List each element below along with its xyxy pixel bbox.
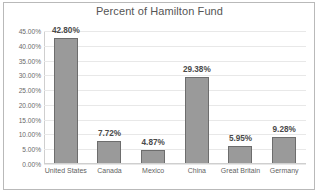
bar[interactable] [185, 77, 209, 164]
y-axis-tick-label: 25.00% [1, 87, 41, 94]
y-axis-tick-label: 30.00% [1, 72, 41, 79]
x-axis-category-label: Canada [97, 167, 122, 174]
y-axis-tick-label: 20.00% [1, 101, 41, 108]
bar-slot: 5.95% [219, 31, 263, 164]
y-axis-tick-label: 5.00% [1, 146, 41, 153]
plot-area: 42.80%7.72%4.87%29.38%5.95%9.28% [44, 31, 306, 164]
bar-value-label: 9.28% [273, 125, 296, 134]
bar[interactable] [54, 38, 78, 164]
bar[interactable] [97, 141, 121, 164]
y-axis-tick-label: 15.00% [1, 116, 41, 123]
bar-value-label: 4.87% [142, 138, 165, 147]
bar[interactable] [272, 137, 296, 164]
chart-container: Percent of Hamilton Fund 45.00%40.00%35.… [0, 0, 319, 194]
chart-title: Percent of Hamilton Fund [0, 5, 319, 17]
bar[interactable] [228, 146, 252, 164]
x-axis-category-label: China [188, 167, 206, 174]
y-axis-tick-label: 10.00% [1, 131, 41, 138]
y-axis-tick-label: 45.00% [1, 28, 41, 35]
bar-slot: 9.28% [262, 31, 306, 164]
x-axis-category-label: Great Britain [221, 167, 260, 174]
bar-slot: 7.72% [88, 31, 132, 164]
bar-value-label: 5.95% [229, 134, 252, 143]
x-axis-category-label: Germany [270, 167, 299, 174]
y-axis-tick-label: 0.00% [1, 161, 41, 168]
x-axis-category-label: United States [45, 167, 87, 174]
bar-slot: 29.38% [175, 31, 219, 164]
bar-value-label: 7.72% [98, 129, 121, 138]
x-axis-line [44, 163, 306, 164]
bar[interactable] [141, 150, 165, 164]
bar-value-label: 42.80% [52, 26, 80, 35]
x-axis-category-label: Mexico [142, 167, 164, 174]
bar-value-label: 29.38% [183, 65, 211, 74]
bars-group: 42.80%7.72%4.87%29.38%5.95%9.28% [44, 31, 306, 164]
y-axis-tick-label: 35.00% [1, 57, 41, 64]
y-axis-tick-label: 40.00% [1, 42, 41, 49]
bar-slot: 4.87% [131, 31, 175, 164]
bar-slot: 42.80% [44, 31, 88, 164]
y-axis-tick-labels: 45.00%40.00%35.00%30.00%25.00%20.00%15.0… [0, 31, 41, 164]
gridline [44, 164, 306, 165]
x-axis-category-labels: United StatesCanadaMexicoChinaGreat Brit… [44, 167, 306, 183]
